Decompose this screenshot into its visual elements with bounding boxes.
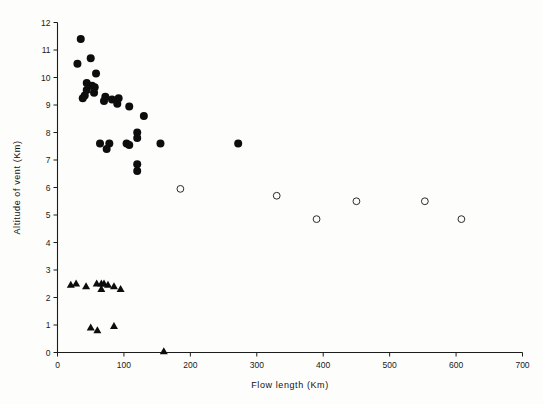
data-point-open-circle — [273, 192, 280, 199]
data-point-filled-circle — [113, 100, 121, 108]
plot-canvas: 01234567891011120100200300400500600700Fl… — [0, 0, 543, 404]
series-open-circles — [177, 185, 465, 222]
y-tick-label: 2 — [46, 293, 51, 303]
data-point-filled-circle — [92, 69, 100, 77]
data-point-filled-circle — [79, 94, 87, 102]
y-tick-label: 5 — [46, 210, 51, 220]
data-point-filled-circle — [125, 141, 133, 149]
data-point-filled-circle — [96, 140, 104, 148]
data-point-triangle — [82, 282, 90, 289]
x-tick-label: 700 — [515, 360, 529, 370]
x-tick-label: 400 — [316, 360, 330, 370]
data-point-open-circle — [421, 198, 428, 205]
data-point-triangle — [72, 279, 80, 286]
y-tick-label: 12 — [41, 18, 51, 28]
x-tick-label: 0 — [55, 360, 60, 370]
y-axis-title: Altitude of vent (Km) — [12, 140, 22, 234]
x-tick-label: 500 — [383, 360, 397, 370]
y-tick-label: 11 — [42, 45, 51, 55]
data-point-triangle — [110, 282, 118, 289]
series-triangles — [67, 279, 168, 354]
y-tick-label: 8 — [46, 128, 51, 138]
x-tick-label: 200 — [183, 360, 197, 370]
data-point-open-circle — [313, 216, 320, 223]
data-point-filled-circle — [133, 167, 141, 175]
data-point-filled-circle — [234, 140, 242, 148]
x-tick-label: 300 — [250, 360, 264, 370]
scatter-plot-figure: 01234567891011120100200300400500600700Fl… — [0, 0, 543, 404]
data-point-triangle — [87, 323, 95, 330]
y-tick-label: 1 — [46, 320, 51, 330]
data-point-triangle — [110, 322, 118, 329]
data-point-filled-circle — [140, 112, 148, 120]
y-tick-label: 3 — [46, 265, 51, 275]
data-point-triangle — [117, 285, 125, 292]
data-point-filled-circle — [133, 134, 141, 142]
data-point-open-circle — [458, 216, 465, 223]
y-tick-label: 10 — [41, 73, 51, 83]
x-axis-title: Flow length (Km) — [251, 380, 329, 390]
data-point-open-circle — [177, 185, 184, 192]
y-tick-label: 6 — [46, 183, 51, 193]
x-tick-label: 100 — [117, 360, 131, 370]
y-tick-label: 7 — [46, 155, 51, 165]
y-tick-label: 4 — [46, 238, 51, 248]
series-filled-circles — [73, 35, 242, 175]
data-point-filled-circle — [90, 89, 98, 97]
data-point-open-circle — [353, 198, 360, 205]
data-point-triangle — [93, 326, 101, 333]
data-point-filled-circle — [156, 140, 164, 148]
data-point-filled-circle — [87, 54, 95, 62]
data-point-filled-circle — [77, 35, 85, 43]
data-point-filled-circle — [103, 145, 111, 153]
data-point-filled-circle — [133, 160, 141, 168]
data-point-filled-circle — [73, 60, 81, 68]
data-point-triangle — [160, 347, 168, 354]
x-tick-label: 600 — [449, 360, 463, 370]
axis-spines — [58, 23, 523, 353]
y-tick-label: 9 — [46, 100, 51, 110]
y-tick-label: 0 — [46, 348, 51, 358]
data-point-filled-circle — [125, 102, 133, 110]
data-point-filled-circle — [100, 97, 108, 105]
